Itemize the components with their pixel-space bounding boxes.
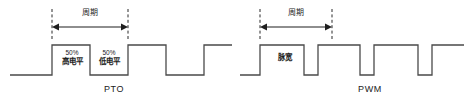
pwm-period-arrow-left-head xyxy=(260,24,267,31)
pwm-panel: 周期 脉宽 PWM xyxy=(232,0,464,107)
pto-waveform-svg xyxy=(0,0,232,107)
pwm-square-wave xyxy=(240,45,464,75)
pto-period-arrow-right-head xyxy=(121,24,128,31)
pto-panel: 周期 50% 高电平 50% 低电平 PTO xyxy=(0,0,232,107)
pwm-waveform-svg xyxy=(232,0,464,107)
waveform-figure: 周期 50% 高电平 50% 低电平 PTO 周期 脉宽 PWM xyxy=(0,0,464,107)
pto-period-arrow-left-head xyxy=(52,24,59,31)
pwm-period-arrow-right-head xyxy=(325,24,332,31)
pto-square-wave xyxy=(10,45,232,75)
